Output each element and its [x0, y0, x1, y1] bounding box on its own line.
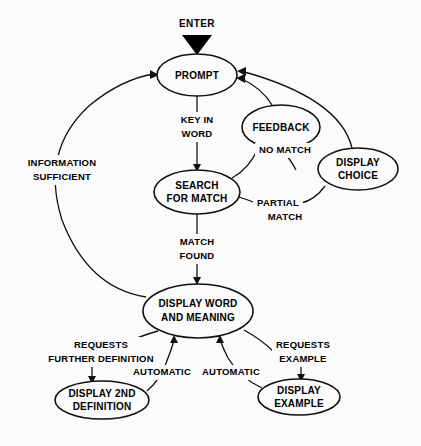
match-label: MATCH: [180, 236, 215, 247]
display-example-label-line1: DISPLAY: [277, 385, 321, 396]
flowchart-svg: PROMPT FEEDBACK DISPLAY CHOICE SEARCH FO…: [0, 0, 421, 446]
flowchart-canvas: PROMPT FEEDBACK DISPLAY CHOICE SEARCH FO…: [0, 0, 421, 446]
label-information-sufficient: INFORMATION SUFFICIENT: [14, 155, 110, 185]
node-display-example[interactable]: DISPLAY EXAMPLE: [258, 379, 340, 415]
enter-triangle-marker: [182, 35, 212, 55]
partial-match-label: MATCH: [268, 211, 303, 222]
label-partial-match: PARTIAL MATCH: [253, 196, 303, 224]
label-automatic-right: AUTOMATIC: [200, 365, 262, 380]
prompt-label: PROMPT: [175, 70, 219, 81]
example-label: EXAMPLE: [279, 353, 326, 364]
node-display-choice[interactable]: DISPLAY CHOICE: [318, 148, 398, 190]
label-requests-example: REQUESTS EXAMPLE: [272, 337, 334, 367]
node-display-word[interactable]: DISPLAY WORD AND MEANING: [143, 284, 253, 338]
node-prompt[interactable]: PROMPT: [157, 54, 237, 96]
display-word-label-line1: DISPLAY WORD: [158, 298, 237, 309]
label-automatic-left: AUTOMATIC: [131, 365, 193, 380]
information-label: INFORMATION: [28, 157, 97, 168]
word-label: WORD: [182, 128, 213, 139]
display-example-label-line2: EXAMPLE: [274, 398, 324, 409]
edge-enter-prompt: [182, 35, 212, 55]
node-display-2nd[interactable]: DISPLAY 2ND DEFINITION: [55, 381, 149, 419]
requests-right-label: REQUESTS: [276, 339, 330, 350]
found-label: FOUND: [180, 250, 215, 261]
display-2nd-label-line1: DISPLAY 2ND: [68, 388, 135, 399]
feedback-label: FEEDBACK: [252, 122, 310, 133]
label-requests-further-definition: REQUESTS FURTHER DEFINITION: [40, 337, 162, 367]
node-feedback[interactable]: FEEDBACK: [242, 105, 320, 149]
further-definition-label: FURTHER DEFINITION: [48, 353, 153, 364]
sufficient-label: SUFFICIENT: [33, 171, 91, 182]
search-label-line1: SEARCH: [175, 180, 218, 191]
edge-example-display-word: [216, 335, 262, 388]
no-match-label: NO MATCH: [259, 144, 311, 155]
enter-label: ENTER: [179, 18, 215, 29]
partial-label: PARTIAL: [257, 197, 299, 208]
automatic-left-label: AUTOMATIC: [133, 366, 191, 377]
display-2nd-label-line2: DEFINITION: [73, 401, 132, 412]
key-in-label: KEY IN: [181, 114, 214, 125]
automatic-right-label: AUTOMATIC: [202, 366, 260, 377]
label-key-in-word: KEY IN WORD: [168, 112, 226, 142]
display-choice-label-line2: CHOICE: [338, 170, 378, 181]
display-choice-label-line1: DISPLAY: [336, 157, 380, 168]
node-search[interactable]: SEARCH FOR MATCH: [154, 170, 240, 214]
label-match-found: MATCH FOUND: [170, 234, 224, 264]
display-word-label-line2: AND MEANING: [161, 312, 235, 323]
search-label-line2: FOR MATCH: [166, 193, 227, 204]
requests-left-label: REQUESTS: [74, 339, 128, 350]
label-no-match: NO MATCH: [255, 143, 315, 158]
